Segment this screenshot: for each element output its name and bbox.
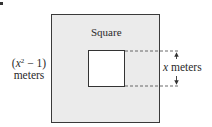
- outer-square-label: Square: [91, 26, 122, 39]
- outer-side-expression: (x2 − 1): [6, 57, 52, 69]
- expression-rest: − 1): [24, 57, 46, 69]
- outer-side-length-label: (x2 − 1) meters: [6, 57, 52, 81]
- inner-side-length-label: x meters: [163, 61, 202, 74]
- inner-square-cutout: [88, 50, 125, 87]
- inner-side-unit: meters: [168, 61, 202, 73]
- list-bullet-marker: [0, 2, 3, 5]
- outer-side-unit: meters: [6, 69, 52, 81]
